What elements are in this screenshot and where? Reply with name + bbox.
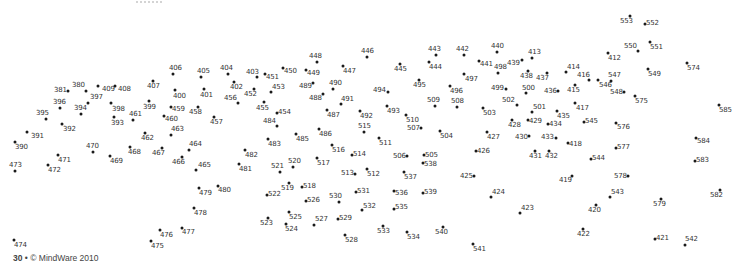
dot-number-label: 552 <box>646 20 659 27</box>
dot-number-label: 437 <box>536 75 549 82</box>
dot-point <box>610 80 613 83</box>
dot-number-label: 421 <box>656 235 669 242</box>
dot-number-label: 423 <box>521 205 534 212</box>
dot-number-label: 466 <box>172 159 185 166</box>
dot-number-label: 525 <box>289 214 302 221</box>
dot-number-label: 413 <box>528 49 541 56</box>
dot-number-label: 553 <box>620 18 633 25</box>
dot-point <box>505 88 508 91</box>
dot-point <box>172 73 175 76</box>
dot-number-label: 499 <box>491 85 504 92</box>
dot-number-label: 545 <box>585 118 598 125</box>
dot-number-label: 520 <box>288 158 301 165</box>
dot-number-label: 486 <box>319 131 332 138</box>
dot-point <box>623 91 626 94</box>
dot-number-label: 585 <box>719 107 732 114</box>
dot-number-label: 574 <box>687 65 700 72</box>
dot-point <box>313 224 316 227</box>
copyright-text: © MindWare 2010 <box>30 253 98 263</box>
dot-number-label: 451 <box>266 74 279 81</box>
dot-point <box>521 59 524 62</box>
dot-number-label: 426 <box>477 148 490 155</box>
dot-number-label: 391 <box>31 133 44 140</box>
dot-number-label: 457 <box>210 119 223 126</box>
dot-number-label: 502 <box>502 97 515 104</box>
dot-number-label: 576 <box>617 124 630 131</box>
dot-number-label: 515 <box>358 123 371 130</box>
dot-number-label: 534 <box>407 234 420 241</box>
dot-number-label: 435 <box>557 113 570 120</box>
dot-point <box>59 107 62 110</box>
dot-point <box>363 131 366 134</box>
dot-number-label: 535 <box>395 204 408 211</box>
dot-number-label: 419 <box>559 177 572 184</box>
dot-point <box>170 134 173 137</box>
dot-number-label: 417 <box>576 105 589 112</box>
dot-number-label: 503 <box>483 110 496 117</box>
dot-number-label: 543 <box>611 189 624 196</box>
dot-number-label: 434 <box>549 121 562 128</box>
dot-number-label: 449 <box>307 70 320 77</box>
dot-number-label: 522 <box>268 191 281 198</box>
dot-number-label: 441 <box>480 61 493 68</box>
dot-number-label: 453 <box>272 84 285 91</box>
dot-number-label: 474 <box>14 242 27 249</box>
dot-point <box>132 119 135 122</box>
dot-number-label: 494 <box>373 87 386 94</box>
dot-number-label: 523 <box>260 220 273 227</box>
dot-number-label: 508 <box>451 98 464 105</box>
dot-number-label: 400 <box>173 93 186 100</box>
dot-number-label: 485 <box>296 136 309 143</box>
dot-to-dot-page: 3813804094083973963943983953923934613913… <box>0 0 733 265</box>
dot-point <box>332 88 335 91</box>
dot-number-label: 491 <box>341 96 354 103</box>
dot-number-label: 395 <box>36 110 49 117</box>
dot-number-label: 472 <box>48 167 61 174</box>
dot-number-label: 398 <box>112 106 125 113</box>
dot-number-label: 427 <box>487 134 500 141</box>
dot-number-label: 479 <box>199 190 212 197</box>
dot-point <box>684 244 687 247</box>
dot-number-label: 516 <box>332 147 345 154</box>
dot-number-label: 539 <box>424 189 437 196</box>
dot-number-label: 402 <box>230 84 243 91</box>
dot-number-label: 507 <box>407 125 420 132</box>
dot-point <box>316 61 319 64</box>
dot-number-label: 380 <box>72 82 85 89</box>
dot-number-label: 465 <box>198 162 211 169</box>
dot-number-label: 429 <box>529 118 542 125</box>
dot-point <box>322 93 325 96</box>
dot-number-label: 397 <box>90 94 103 101</box>
dot-point <box>528 135 531 138</box>
dot-number-label: 579 <box>653 201 666 208</box>
dot-number-label: 396 <box>53 99 66 106</box>
dot-point <box>456 106 459 109</box>
dot-number-label: 551 <box>650 44 663 51</box>
dot-number-label: 478 <box>194 210 207 217</box>
dot-number-label: 418 <box>569 141 582 148</box>
dot-number-label: 414 <box>567 64 580 71</box>
dot-number-label: 415 <box>567 87 580 94</box>
dot-point <box>473 175 476 178</box>
dot-number-label: 401 <box>200 92 213 99</box>
dot-point <box>366 56 369 59</box>
dot-number-label: 468 <box>128 149 141 156</box>
dot-point <box>114 85 117 88</box>
dot-point <box>97 85 100 88</box>
dot-number-label: 537 <box>404 174 417 181</box>
dot-number-label: 501 <box>533 104 546 111</box>
dot-point <box>279 171 282 174</box>
dot-number-label: 458 <box>189 109 202 116</box>
dot-number-label: 528 <box>345 237 358 244</box>
dot-number-label: 431 <box>529 153 542 160</box>
dot-number-label: 469 <box>110 158 123 165</box>
dot-number-label: 424 <box>492 189 505 196</box>
dot-number-label: 577 <box>617 144 630 151</box>
dot-point <box>200 76 203 79</box>
dot-number-label: 540 <box>435 229 448 236</box>
dot-number-label: 583 <box>696 157 709 164</box>
dot-number-label: 448 <box>309 53 322 60</box>
dot-number-label: 497 <box>465 76 478 83</box>
dot-number-label: 490 <box>329 80 342 87</box>
dot-number-label: 482 <box>245 152 258 159</box>
